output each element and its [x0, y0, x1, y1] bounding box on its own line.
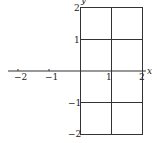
- y-axis-label: y: [80, 0, 87, 5]
- y-tick-label: −1: [68, 98, 81, 108]
- grid-svg: −2 −1 1 2 x 2 1 −1 −2 y: [0, 0, 157, 143]
- x-axis-label: x: [147, 66, 152, 76]
- x-tick-label: −2: [14, 72, 27, 82]
- y-tick-label: 2: [74, 3, 80, 13]
- y-tick-label: 1: [74, 35, 80, 45]
- y-tick-label: −2: [68, 129, 81, 139]
- x-tick-label: 2: [139, 72, 145, 82]
- x-tick-label: 1: [106, 72, 112, 82]
- coordinate-grid-diagram: −2 −1 1 2 x 2 1 −1 −2 y: [0, 0, 157, 143]
- x-tick-label: −1: [45, 72, 58, 82]
